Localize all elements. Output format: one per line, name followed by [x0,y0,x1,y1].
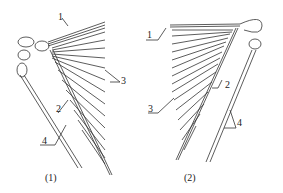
panel-2-label-1: 1 [147,30,152,40]
panel-1-caption: (1) [45,173,57,183]
panel-1-label-4: 4 [42,136,47,146]
panel-2-label-2: 2 [225,80,230,90]
panel-1-label-3: 3 [121,76,126,86]
panel-2-label-3: 3 [148,104,153,114]
panel-1-drawing [17,18,120,175]
panel-2-caption: (2) [184,173,196,183]
panel-1-label-2: 2 [56,104,61,114]
diagram-drawing [0,0,283,193]
panel-2-label-4: 4 [237,118,242,128]
panel-1-label-1: 1 [58,12,63,22]
diagram-canvas: 1 3 2 4 (1) 1 2 3 4 (2) [0,0,283,193]
panel-2-drawing [146,19,262,162]
